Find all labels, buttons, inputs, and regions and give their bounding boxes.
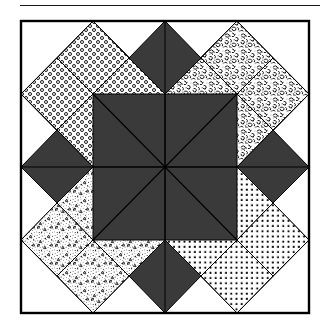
quilt-diagram-page — [0, 0, 323, 332]
quilt-block-figure — [0, 0, 323, 332]
